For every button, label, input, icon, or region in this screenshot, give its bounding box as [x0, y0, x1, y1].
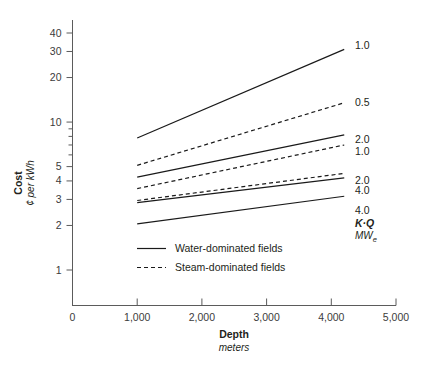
- series-line-water-1.0: [137, 49, 344, 138]
- y-tick-label-20: 20: [50, 71, 62, 83]
- series-value-label-5: 4.0: [355, 184, 370, 196]
- x-axis-units: meters: [219, 342, 250, 353]
- y-tick-label-10: 10: [50, 116, 62, 128]
- series-value-label-3: 1.0: [355, 145, 370, 157]
- kq-label: K·Q: [355, 217, 374, 229]
- chart-svg: 1234510203040 01,0002,0003,0004,0005,000…: [0, 0, 423, 367]
- mwe-label: MWe: [355, 230, 377, 244]
- legend-label-steam: Steam-dominated fields: [175, 261, 285, 273]
- y-axis-units: ¢ per kWh: [25, 160, 36, 206]
- y-tick-label-3: 3: [56, 193, 62, 205]
- series-value-label-2: 2.0: [355, 133, 370, 145]
- series-label-group: 1.00.52.01.02.04.04.0: [355, 39, 370, 216]
- y-tick-label-30: 30: [50, 45, 62, 57]
- series-value-label-6: 4.0: [355, 204, 370, 216]
- y-tick-label-1: 1: [56, 264, 62, 276]
- x-tick-label-2000: 2,000: [189, 311, 215, 323]
- y-axis-ticks: 1234510203040: [50, 27, 73, 276]
- mw-text: MW: [355, 230, 374, 241]
- data-series-group: [137, 49, 344, 224]
- series-line-water-2.0: [137, 135, 344, 177]
- y-tick-label-40: 40: [50, 27, 62, 39]
- y-tick-label-4: 4: [56, 174, 62, 186]
- y-tick-label-5: 5: [56, 160, 62, 172]
- x-tick-label-1000: 1,000: [124, 311, 150, 323]
- x-tick-label-5000: 5,000: [383, 311, 409, 323]
- series-line-water-4.0-lower: [137, 196, 344, 224]
- x-tick-label-0: 0: [70, 311, 76, 323]
- y-axis-title-group: Cost ¢ per kWh: [12, 160, 36, 206]
- x-axis-title-group: Depth meters: [219, 328, 250, 353]
- series-value-label-0: 1.0: [355, 39, 370, 51]
- cost-vs-depth-chart: 1234510203040 01,0002,0003,0004,0005,000…: [0, 0, 423, 367]
- legend: Water-dominated fields Steam-dominated f…: [137, 242, 285, 273]
- series-line-steam-2.0: [137, 173, 344, 200]
- y-tick-label-2: 2: [56, 219, 62, 231]
- x-tick-label-4000: 4,000: [318, 311, 344, 323]
- y-axis-title: Cost: [12, 171, 24, 195]
- legend-label-water: Water-dominated fields: [175, 242, 283, 254]
- mwe-subscript: e: [373, 235, 377, 244]
- unit-annotation-group: K·Q MWe: [355, 217, 377, 244]
- x-axis-title: Depth: [219, 328, 249, 340]
- series-value-label-1: 0.5: [355, 96, 370, 108]
- x-tick-label-3000: 3,000: [253, 311, 279, 323]
- x-axis-ticks: 01,0002,0003,0004,0005,000: [70, 299, 410, 324]
